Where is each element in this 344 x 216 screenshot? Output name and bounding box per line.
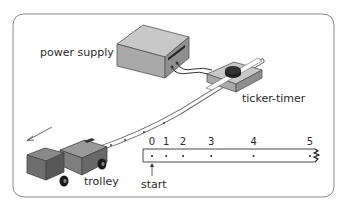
tape-dot	[124, 139, 126, 141]
start-arrow	[150, 163, 154, 176]
ticker-timer	[206, 58, 262, 92]
strip-dot	[309, 155, 311, 157]
label-trolley: trolley	[84, 175, 119, 188]
tape-strip: 012345	[143, 136, 319, 162]
ticker-timer-diagram: power supply ticker-timer trolley start …	[0, 0, 344, 216]
label-power-supply: power supply	[40, 46, 114, 59]
label-ticker-timer: ticker-timer	[242, 92, 306, 105]
power-supply	[117, 25, 189, 78]
tape-dot	[163, 122, 165, 124]
strip-dot-label: 2	[180, 136, 186, 147]
strip-dot	[165, 155, 167, 157]
strip-dot	[210, 155, 212, 157]
strip-dot	[151, 155, 153, 157]
strip-dot-label: 4	[250, 136, 256, 147]
strip-dot	[253, 155, 255, 157]
tape-dot	[110, 144, 112, 146]
strip-dot-label: 1	[163, 136, 169, 147]
strip-dot-label: 0	[149, 136, 155, 147]
strip-dot-label: 3	[208, 136, 214, 147]
strip-dot-label: 5	[307, 136, 313, 147]
label-start: start	[141, 178, 167, 191]
strip-dot	[182, 155, 184, 157]
tape-dot	[143, 131, 145, 133]
motion-arrow	[27, 127, 52, 141]
